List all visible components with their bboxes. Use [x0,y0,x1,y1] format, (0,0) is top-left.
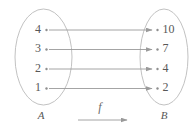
set-b-dot-10 [156,29,158,31]
set-b-element-label-2: 4 [163,61,169,75]
set-b-dot-7 [156,48,158,50]
set-a-dot-3 [45,48,47,50]
set-b-dot-2 [156,87,158,89]
set-a-element-label-0: 4 [35,22,41,36]
set-b-element-label-3: 2 [163,80,169,94]
set-a-dot-4 [45,29,47,31]
set-b-element-label-0: 10 [163,22,175,36]
function-name-label: f [98,100,103,114]
set-a-ellipse [15,9,72,105]
set-b-name-label: B [161,109,168,121]
set-b-dot-4 [156,68,158,70]
set-a-element-label-3: 1 [35,80,41,94]
set-a-element-label-2: 2 [35,61,41,75]
set-b-element-label-1: 7 [163,41,169,55]
figure-canvas: 4 3 2 1 10 7 4 2 A B f [0,0,196,136]
set-a-dot-2 [45,68,47,70]
function-mapping-figure: 4 3 2 1 10 7 4 2 A B f [0,0,196,136]
set-a-element-label-1: 3 [35,41,41,55]
set-a-dot-1 [45,87,47,89]
set-a-name-label: A [37,109,45,121]
